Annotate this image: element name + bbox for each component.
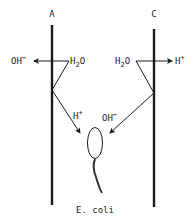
electrolysis-diagram: A C H2O OH− H+ H2O H+ OH− E. coli <box>0 0 196 223</box>
ecoli-flagellum <box>93 159 102 193</box>
line-water-to-electrode-c <box>136 61 154 93</box>
ecoli-label: E. coli <box>76 205 114 215</box>
water-label-right: H2O <box>115 56 130 69</box>
proton-label-left: H+ <box>73 109 83 121</box>
hydroxide-label-left: OH− <box>11 54 26 66</box>
electrode-label-c: C <box>151 9 156 19</box>
line-water-to-electrode-a <box>52 61 69 90</box>
water-label-left: H2O <box>70 56 85 69</box>
electrode-label-a: A <box>49 9 55 19</box>
proton-label-right: H+ <box>175 54 185 66</box>
hydroxide-label-right: OH− <box>102 111 117 123</box>
ecoli-cell-body <box>88 128 103 159</box>
